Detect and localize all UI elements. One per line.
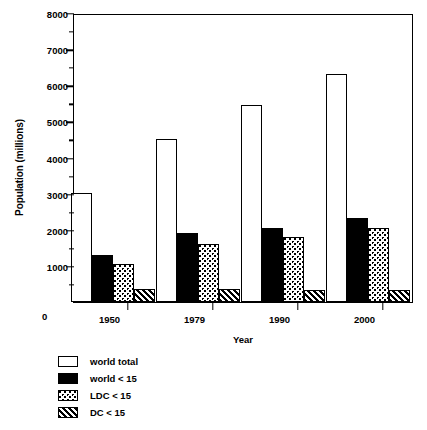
y-axis-zero-label: 0: [42, 311, 47, 322]
y-minor-tick-4500: [69, 140, 74, 141]
bar-1979-world-15: [177, 233, 198, 302]
x-tick-1950: [127, 303, 128, 310]
y-tick-label-5000: 5000: [28, 117, 68, 128]
bar-1950-world-15: [92, 255, 113, 302]
bar-1950-ldc-15: [113, 264, 134, 302]
y-minor-tick-5500: [69, 104, 74, 105]
y-tick-label-2000: 2000: [28, 225, 68, 236]
bar-2000-dc-15: [389, 290, 410, 302]
chart-legend: world totalworld < 15LDC < 15DC < 15: [58, 353, 138, 421]
bar-1990-world-15: [262, 228, 283, 302]
legend-item-ldc-15: LDC < 15: [58, 387, 138, 404]
y-minor-tick-6500: [69, 68, 74, 69]
y-tick-label-4000: 4000: [28, 153, 68, 164]
legend-swatch-icon-black: [58, 373, 78, 384]
y-tick-label-7000: 7000: [28, 45, 68, 56]
bar-2000-world-15: [347, 218, 368, 302]
bar-1979-world-total: [156, 139, 177, 302]
legend-label: DC < 15: [90, 407, 125, 418]
bar-1990-dc-15: [304, 290, 325, 302]
legend-label: world < 15: [90, 373, 137, 384]
y-axis-title: Population (millions): [14, 78, 25, 258]
y-minor-tick-3500: [69, 176, 74, 177]
y-tick-label-8000: 8000: [28, 9, 68, 20]
x-tick-label-1979: 1979: [165, 314, 225, 325]
x-tick-2000: [382, 303, 383, 310]
legend-swatch-icon-dotted: [58, 390, 78, 401]
bar-1950-dc-15: [134, 289, 155, 302]
y-minor-tick-1500: [69, 248, 74, 249]
legend-swatch-icon-white: [58, 356, 78, 367]
y-minor-tick-2500: [69, 212, 74, 213]
x-tick-1979: [212, 303, 213, 310]
y-minor-tick-7500: [69, 31, 74, 32]
legend-label: world total: [90, 356, 138, 367]
x-tick-label-1950: 1950: [80, 314, 140, 325]
legend-label: LDC < 15: [90, 390, 131, 401]
bar-1990-world-total: [241, 105, 262, 302]
y-tick-label-6000: 6000: [28, 81, 68, 92]
bar-1979-dc-15: [219, 289, 240, 302]
x-axis-title: Year: [73, 334, 413, 345]
population-bar-chart: Population (millions) 100020003000400050…: [0, 0, 427, 430]
legend-item-dc-15: DC < 15: [58, 404, 138, 421]
bar-1990-ldc-15: [283, 237, 304, 302]
bar-2000-ldc-15: [368, 228, 389, 302]
legend-item-world-total: world total: [58, 353, 138, 370]
x-tick-label-1990: 1990: [250, 314, 310, 325]
legend-swatch-icon-hatched: [58, 407, 78, 418]
bar-2000-world-total: [326, 74, 347, 302]
y-tick-label-3000: 3000: [28, 189, 68, 200]
y-tick-label-1000: 1000: [28, 261, 68, 272]
legend-item-world-15: world < 15: [58, 370, 138, 387]
x-tick-label-2000: 2000: [335, 314, 395, 325]
bar-1979-ldc-15: [198, 244, 219, 302]
y-minor-tick-500: [69, 284, 74, 285]
plot-area: [73, 14, 413, 303]
x-tick-1990: [297, 303, 298, 310]
